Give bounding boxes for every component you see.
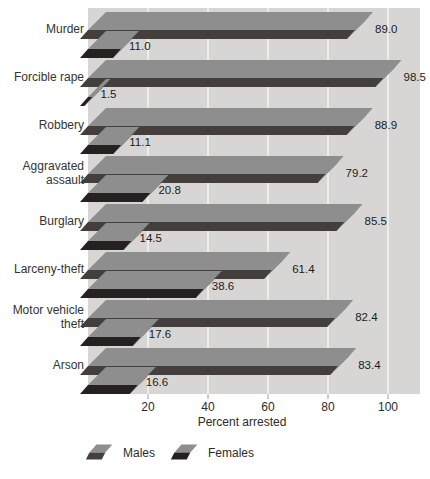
bar-top-face: [88, 252, 290, 270]
females-value-label: 20.8: [158, 184, 180, 196]
bar-top-face: [88, 156, 344, 174]
males-legend-swatch-icon: [85, 443, 115, 462]
x-axis-title: Percent arrested: [198, 415, 287, 429]
females-value-label: 11.0: [129, 40, 151, 52]
tick-label: 100: [378, 400, 398, 414]
males-value-label: 83.4: [358, 359, 381, 371]
bar-top-face: [88, 348, 356, 366]
males-value-label: 79.2: [346, 167, 368, 179]
females-value-label: 16.6: [146, 376, 168, 388]
tick-label: 20: [141, 400, 155, 414]
females-value-label: 17.6: [149, 328, 171, 340]
figure: 2040608010089.011.098.51.588.911.179.220…: [0, 0, 430, 479]
males-value-label: 88.9: [375, 119, 397, 131]
bar-front-face: [80, 241, 132, 250]
bar-front-face: [80, 337, 141, 346]
males-value-label: 98.5: [404, 71, 426, 83]
category-label: Burglary: [0, 206, 84, 236]
males-bar: [80, 60, 402, 87]
bar-front-face: [80, 193, 150, 202]
bar-top-face: [88, 271, 222, 289]
bar-front-face: [80, 78, 384, 87]
legend-item-females: Females: [170, 443, 254, 462]
category-label: Forcible rape: [0, 62, 84, 92]
males-value-label: 82.4: [355, 311, 378, 323]
category-label: Robbery: [0, 110, 84, 140]
bar-top-face: [88, 12, 373, 30]
tick-label: 60: [261, 400, 275, 414]
category-label: Aggravated assault: [0, 158, 84, 188]
bar-front-face: [80, 289, 204, 298]
legend-label-females: Females: [208, 446, 254, 460]
legend-label-males: Males: [123, 446, 155, 460]
males-value-label: 89.0: [375, 23, 397, 35]
females-value-label: 11.1: [129, 136, 151, 148]
males-value-label: 85.5: [365, 215, 387, 227]
bar-top-face: [88, 60, 402, 78]
females-value-label: 38.6: [212, 280, 234, 292]
females-legend-swatch-icon: [170, 443, 200, 462]
females-value-label: 1.5: [101, 88, 117, 100]
bar-top-face: [88, 204, 363, 222]
males-value-label: 61.4: [292, 263, 315, 275]
category-label: Motor vehicle theft: [0, 302, 84, 332]
legend-item-males: Males: [85, 443, 155, 462]
females-value-label: 14.5: [140, 232, 162, 244]
bar-top-face: [88, 108, 373, 126]
bar-front-face: [80, 385, 138, 394]
bar-top-face: [88, 300, 353, 318]
tick-label: 40: [201, 400, 215, 414]
category-label: Murder: [0, 14, 84, 44]
tick-label: 80: [321, 400, 335, 414]
category-label: Larceny-theft: [0, 254, 84, 284]
category-label: Arson: [0, 350, 84, 380]
